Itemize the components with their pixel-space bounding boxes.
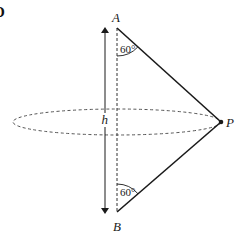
label-p: P [225, 115, 234, 130]
rotation-circle [13, 109, 221, 135]
label-b: B [113, 219, 121, 234]
cone-diagram: D h 60° 60° A B P [0, 0, 237, 238]
angle-label-bottom: 60° [120, 186, 135, 198]
corner-glyph: D [0, 4, 5, 20]
segment-bp [117, 122, 221, 212]
point-p [219, 120, 224, 125]
height-label: h [102, 112, 109, 127]
label-a: A [111, 10, 120, 25]
angle-label-top: 60° [120, 43, 135, 55]
